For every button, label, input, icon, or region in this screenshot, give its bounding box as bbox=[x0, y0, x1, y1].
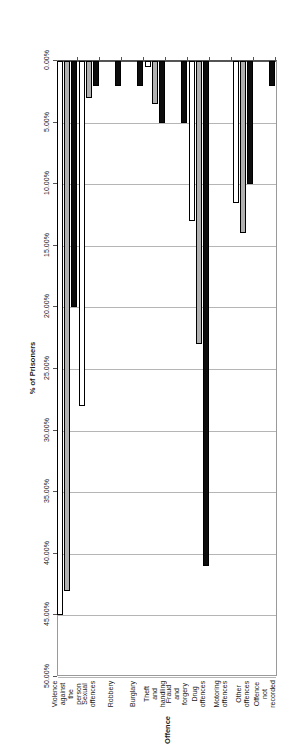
bar bbox=[64, 61, 70, 591]
bar bbox=[233, 61, 239, 203]
bar-group bbox=[188, 61, 210, 675]
value-tick bbox=[53, 491, 57, 492]
value-tick bbox=[53, 368, 57, 369]
category-label: Drug offences bbox=[188, 683, 210, 705]
bar bbox=[145, 61, 151, 67]
value-axis-label: 0.00% bbox=[43, 44, 51, 76]
value-axis-label: 20.00% bbox=[43, 290, 51, 322]
category-label: Burglary bbox=[122, 683, 144, 705]
bar bbox=[247, 61, 253, 184]
value-tick bbox=[53, 183, 57, 184]
bar-group bbox=[56, 61, 78, 675]
value-tick bbox=[53, 676, 57, 677]
category-label: Sexual offences bbox=[78, 683, 100, 705]
value-axis-label: 25.00% bbox=[43, 352, 51, 384]
bar bbox=[57, 61, 63, 615]
value-axis-label: 10.00% bbox=[43, 167, 51, 199]
bar-group bbox=[122, 61, 144, 675]
category-axis-title: Offence bbox=[163, 716, 172, 744]
bar bbox=[79, 61, 85, 406]
value-tick bbox=[53, 122, 57, 123]
bar bbox=[196, 61, 202, 344]
bar bbox=[240, 61, 246, 233]
category-label: Fraud and forgery bbox=[166, 683, 188, 705]
category-label: Motoring offences bbox=[210, 683, 232, 705]
bar bbox=[115, 61, 121, 86]
value-tick bbox=[53, 553, 57, 554]
bar bbox=[152, 61, 158, 104]
value-axis-label: 45.00% bbox=[43, 598, 51, 630]
plot-area: Violence against the personSexual offenc… bbox=[57, 60, 277, 676]
bar bbox=[93, 61, 99, 86]
bar-group bbox=[144, 61, 166, 675]
value-axis-label: 5.00% bbox=[43, 106, 51, 138]
value-tick bbox=[53, 430, 57, 431]
bar bbox=[203, 61, 209, 566]
bar-group bbox=[210, 61, 232, 675]
category-label: Offence not recorded bbox=[254, 683, 276, 705]
category-label: Theft and handling bbox=[144, 683, 166, 705]
bar bbox=[189, 61, 195, 221]
value-axis-label: 15.00% bbox=[43, 229, 51, 261]
bar-group bbox=[166, 61, 188, 675]
bar bbox=[137, 61, 143, 86]
value-axis-label: 40.00% bbox=[43, 537, 51, 569]
value-tick bbox=[53, 614, 57, 615]
category-label: Other offences bbox=[232, 683, 254, 705]
bar bbox=[159, 61, 165, 123]
bar bbox=[71, 61, 77, 307]
category-label: Violence against the person bbox=[56, 683, 78, 705]
bar-group bbox=[232, 61, 254, 675]
value-tick bbox=[53, 60, 57, 61]
value-tick bbox=[53, 306, 57, 307]
bar bbox=[86, 61, 92, 98]
value-axis-label: 35.00% bbox=[43, 475, 51, 507]
value-axis-label: 50.00% bbox=[43, 660, 51, 692]
value-axis-title: % of Prisoners bbox=[28, 338, 37, 398]
bar-group bbox=[78, 61, 100, 675]
value-axis-label: 30.00% bbox=[43, 414, 51, 446]
value-tick bbox=[53, 245, 57, 246]
bar-group bbox=[254, 61, 276, 675]
category-label: Robbery bbox=[100, 683, 122, 705]
bar-group bbox=[100, 61, 122, 675]
bar bbox=[269, 61, 275, 86]
bar bbox=[181, 61, 187, 123]
gridline-50 bbox=[58, 677, 276, 678]
